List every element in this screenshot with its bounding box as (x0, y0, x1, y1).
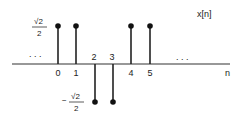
stem-dot (73, 23, 79, 29)
tick-label-2: 2 (91, 52, 96, 62)
stem-n-5 (147, 23, 153, 64)
stem-dot (110, 99, 116, 105)
stem-dot (55, 23, 61, 29)
ellipsis-left: . . . (29, 49, 42, 59)
axis-label: n (225, 68, 230, 78)
pos-label-denominator: 2 (37, 29, 42, 38)
neg-label-numerator: √2 (71, 92, 80, 101)
tick-label-1: 1 (73, 68, 78, 78)
stem-n-0 (55, 23, 61, 64)
tick-label-4: 4 (128, 68, 133, 78)
positive-value-label: √2 2 (32, 17, 47, 38)
ellipsis-right: . . . (176, 52, 189, 62)
stem-n-1 (73, 23, 79, 64)
pos-label-numerator: √2 (34, 17, 43, 26)
tick-label-5: 5 (147, 68, 152, 78)
tick-label-0: 0 (55, 68, 60, 78)
stem-plot: 012345 . . . . . . x[n] n √2 2 − √2 2 (0, 0, 240, 118)
stem-n-4 (128, 23, 134, 64)
stem-dot (92, 99, 98, 105)
stem-dot (128, 23, 134, 29)
stem-n-2 (92, 64, 98, 105)
signal-label: x[n] (197, 9, 212, 19)
tick-labels: 012345 (55, 52, 152, 78)
neg-label-sign: − (62, 96, 67, 105)
stem-plot-figure: 012345 . . . . . . x[n] n √2 2 − √2 2 (0, 0, 240, 118)
stem-dot (147, 23, 153, 29)
tick-label-3: 3 (109, 52, 114, 62)
negative-value-label: − √2 2 (62, 92, 84, 113)
neg-label-denominator: 2 (74, 104, 79, 113)
stem-n-3 (110, 64, 116, 105)
